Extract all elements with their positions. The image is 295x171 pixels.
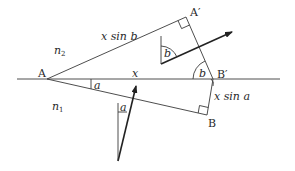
label-x-sin-b: x sin b <box>101 30 138 43</box>
label-b-point: B <box>208 117 216 130</box>
label-angle-a-top: a <box>94 79 101 92</box>
label-angle-b-ray: b <box>164 47 171 60</box>
segment-a-b <box>47 79 207 115</box>
label-bprime-point: B′ <box>217 68 228 81</box>
label-aprime-point: A′ <box>189 6 201 19</box>
label-x-sin-a: x sin a <box>214 90 250 103</box>
segment-bprime-b <box>207 79 213 115</box>
refracted-ray-arrow <box>161 32 232 64</box>
label-angle-a-lower: a <box>120 101 127 114</box>
label-a-point: A <box>37 67 47 80</box>
label-n2: n2 <box>54 44 66 58</box>
right-angle-mark-b <box>198 106 208 114</box>
label-angle-b-bprime: b <box>199 67 206 80</box>
label-x: x <box>132 67 139 80</box>
refraction-diagram: A A′ B′ B x x sin b x sin a n2 n1 a a b … <box>0 0 295 171</box>
label-n1: n1 <box>52 100 64 114</box>
